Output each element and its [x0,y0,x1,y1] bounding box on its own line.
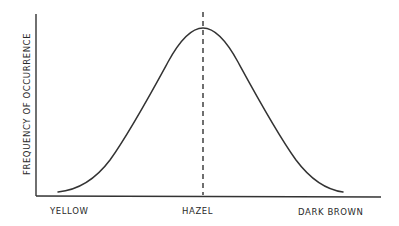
bell-curve-chart: FREQUENCY OF OCCURRENCE YELLOW HAZEL DAR… [0,0,399,226]
bell-curve [58,28,343,192]
x-tick-yellow: YELLOW [49,206,88,216]
y-axis-label: FREQUENCY OF OCCURRENCE [22,33,32,175]
x-tick-hazel: HAZEL [182,206,213,216]
x-tick-dark-brown: DARK BROWN [298,207,364,217]
x-axis [36,196,381,197]
